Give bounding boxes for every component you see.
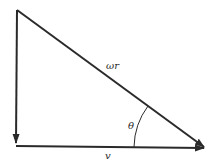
base-v-vector: [16, 146, 204, 148]
theta-label: θ: [128, 121, 134, 131]
velocity-triangle-diagram: [0, 0, 215, 166]
hypotenuse-omega-r-vector: [17, 10, 204, 147]
v-label: v: [105, 151, 111, 161]
vertical-vector-arrow: [16, 10, 17, 143]
omega-r-label: ωr: [106, 61, 119, 71]
theta-angle-arc: [134, 106, 148, 147]
